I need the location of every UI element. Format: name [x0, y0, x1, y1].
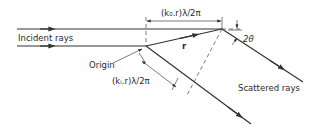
path-top-label: (k₀.r)λ/2π — [161, 8, 201, 18]
origin-label: Origin — [89, 60, 115, 70]
scattered-ray-bottom — [146, 46, 251, 124]
origin-leader — [113, 49, 142, 63]
vector-r-label: r — [182, 41, 187, 51]
scattered-rays-label: Scattered rays — [238, 83, 301, 93]
path-bottom-label: (kᵢ.r)λ/2π — [112, 76, 150, 86]
incident-rays-label: Incident rays — [18, 33, 74, 43]
angle-label: 2θ — [243, 34, 254, 44]
scattered-ray-top — [222, 29, 303, 82]
dashed-wavefront — [186, 29, 222, 97]
scattering-diagram: Incident rays Origin Scattered rays r 2θ… — [0, 0, 320, 138]
